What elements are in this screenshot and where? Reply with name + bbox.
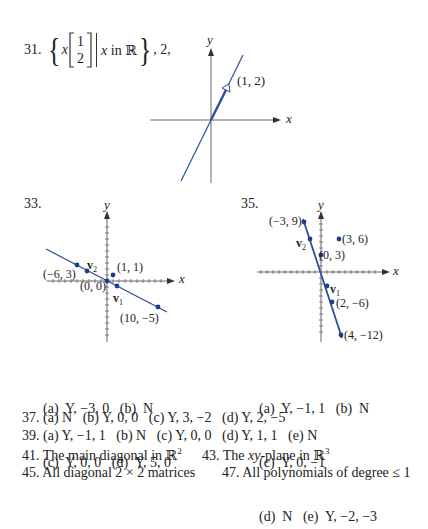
problem-37-answer: 37. (a) N (b) Y, 0, 0 (c) Y, 3, −2 (d) Y… [22, 410, 285, 426]
point-label-2-neg6: (2, −6) [336, 296, 369, 311]
point-label-10-neg5: (10, −5) [120, 311, 159, 326]
v2-label: v2 [296, 236, 306, 252]
problem-43-answer: 43. The xy-plane in ℝ3 [202, 446, 329, 464]
point-label-1-1: (1, 1) [117, 260, 143, 275]
problem-45-answer: 45. All diagonal 2 × 2 matrices [22, 465, 195, 481]
point-label-3-6: (3, 6) [342, 232, 368, 247]
y-axis-label: y [104, 197, 110, 213]
answer-line: (d) N (e) Y, −2, −3 [259, 508, 377, 526]
point-label-neg6-3: (−6, 3) [43, 267, 76, 282]
problem-41-answer: 41. The main diagonal in ℝ2 [22, 446, 182, 464]
point-label-neg3-9: (−3, 9) [269, 214, 302, 229]
v1-label: v1 [330, 282, 340, 298]
v1-label: v1 [113, 291, 123, 307]
x-axis-label: x [286, 111, 292, 127]
y-axis-label: y [207, 32, 213, 48]
graph-35 [214, 210, 428, 350]
x-axis-label: x [393, 263, 399, 279]
point-label: (1, 2) [237, 73, 265, 89]
point-label-0-0: (0, 0) [80, 279, 106, 294]
problem-47-answer: 47. All polynomials of degree ≤ 1 [222, 465, 411, 481]
point-label-4-neg12: (4, −12) [344, 328, 383, 343]
v2-label: v2 [87, 258, 97, 274]
x-axis-label: x [179, 271, 185, 287]
point-label-0-3: (0, 3) [319, 248, 345, 263]
problem-39-answer: 39. (a) Y, −1, 1 (b) N (c) Y, 0, 0 (d) Y… [22, 428, 317, 444]
y-axis-label: y [318, 197, 324, 213]
graph-31 [0, 0, 428, 200]
